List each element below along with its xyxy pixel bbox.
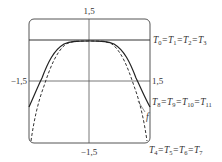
tick-label-right: 1,5: [152, 76, 164, 86]
annotation-t0-t3: T0=T1=T2=T3: [153, 35, 206, 46]
tick-label-left: −1,5: [11, 76, 28, 86]
plot: 1,5 −1,5 1,5 −1,5 f T0=T1=T2=T3 T8=T9=T1…: [0, 0, 222, 162]
function-curve-f: [29, 41, 150, 107]
f-leader-line: [138, 101, 145, 112]
annotation-t8-t11: T8=T9=T10=T11: [152, 97, 212, 108]
tick-label-bottom: −1,5: [81, 147, 98, 157]
curve-label-f: f: [146, 112, 150, 122]
annotation-t4-t7: T4=T5=T6=T7: [149, 145, 203, 156]
tick-label-top: 1,5: [83, 6, 95, 16]
